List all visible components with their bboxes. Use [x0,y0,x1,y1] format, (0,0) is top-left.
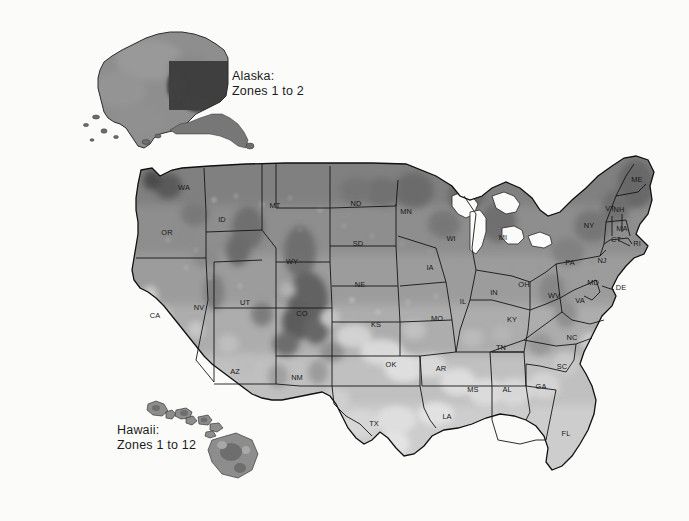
state-label-md: MD [587,278,599,287]
hardiness-zone-map: WAORCANVIDMTWYUTCOAZNMNDSDNEKSOKTXMNIAMO… [0,0,689,521]
state-label-ct: CT [611,235,621,244]
state-label-tx: TX [369,419,379,428]
state-label-az: AZ [230,367,240,376]
alaska-inset-label: Alaska: Zones 1 to 2 [232,69,304,99]
state-label-ar: AR [436,364,446,373]
state-label-ok: OK [386,360,397,369]
state-label-co: CO [296,309,307,318]
state-label-al: AL [502,385,511,394]
state-label-mn: MN [400,207,412,216]
state-label-sc: SC [557,362,568,371]
state-label-va: VA [575,296,585,305]
state-label-oh: OH [518,280,529,289]
state-label-wy: WY [286,257,298,266]
state-label-ut: UT [240,298,250,307]
state-label-il: IL [460,297,466,306]
state-label-ma: MA [616,224,627,233]
state-label-ms: MS [467,385,478,394]
state-label-nc: NC [567,333,578,342]
state-label-ne: NE [355,280,365,289]
state-label-ca: CA [150,311,160,320]
state-label-nv: NV [194,303,204,312]
state-label-ky: KY [507,315,517,324]
state-label-nj: NJ [597,256,606,265]
state-label-la: LA [442,412,451,421]
state-label-ia: IA [426,263,433,272]
conus-landmass: WAORCANVIDMTWYUTCOAZNMNDSDNEKSOKTXMNIAMO… [120,150,680,485]
state-label-sd: SD [353,239,363,248]
alaska-inset [83,25,254,160]
state-label-pa: PA [565,258,575,267]
state-label-mo: MO [431,314,443,323]
map-canvas: WAORCANVIDMTWYUTCOAZNMNDSDNEKSOKTXMNIAMO… [0,0,689,521]
state-label-ny: NY [584,221,594,230]
hawaii-inset-label: Hawaii: Zones 1 to 12 [117,423,196,453]
state-label-wa: WA [178,183,190,192]
state-label-wi: WI [446,234,455,243]
state-label-nd: ND [351,199,362,208]
state-label-mi: MI [499,233,507,242]
state-label-ga: GA [536,382,547,391]
state-label-me: ME [631,175,642,184]
state-label-or: OR [161,228,172,237]
state-label-ks: KS [371,320,381,329]
state-label-wv: WV [548,291,560,300]
state-label-ri: RI [633,239,641,248]
state-label-de: DE [616,283,626,292]
state-label-mt: MT [270,201,281,210]
state-label-nh: NH [614,205,625,214]
state-label-fl: FL [562,429,571,438]
state-label-id: ID [218,215,226,224]
state-label-tn: TN [496,343,506,352]
state-label-nm: NM [291,373,303,382]
state-label-in: IN [490,288,498,297]
